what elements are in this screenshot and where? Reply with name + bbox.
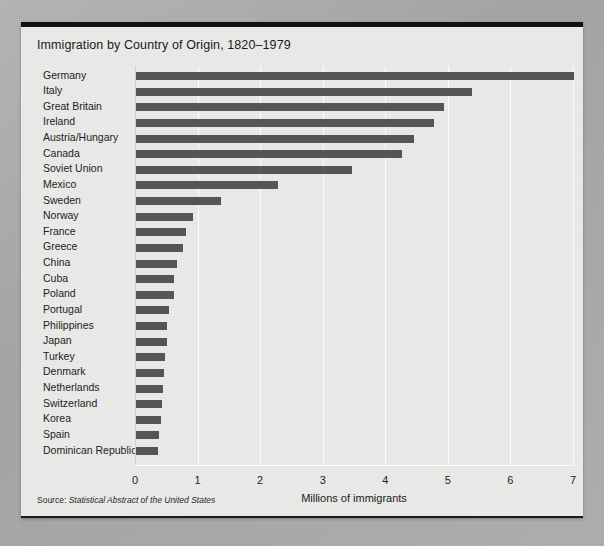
x-tick-label: 6 [507,474,513,486]
bar [136,181,278,189]
bar [136,385,163,393]
plot-area: 01234567 [135,66,573,466]
bar [136,369,164,377]
source-note: Source: Statistical Abstract of the Unit… [37,495,215,505]
category-label: Italy [43,84,62,96]
category-label: Portugal [43,303,82,315]
category-label: Philippines [43,319,94,331]
category-label: Mexico [43,178,76,190]
bar [136,400,162,408]
category-label: Spain [43,428,70,440]
category-label: Turkey [43,350,75,362]
category-label: Japan [43,334,72,346]
category-label: Canada [43,147,80,159]
bar [136,353,165,361]
x-tick-label: 3 [320,474,326,486]
category-label: Soviet Union [43,162,103,174]
x-tick-label: 4 [382,474,388,486]
category-label: Sweden [43,194,81,206]
x-tick-label: 0 [132,474,138,486]
bar [136,306,169,314]
category-label: Netherlands [43,381,100,393]
category-label: Great Britain [43,100,102,112]
category-label: Germany [43,69,86,81]
source-prefix: Source: [37,495,69,505]
bar [136,150,402,158]
bar [136,197,221,205]
bottom-rule [21,516,583,518]
category-label: Switzerland [43,397,97,409]
bar [136,291,174,299]
bar [136,88,472,96]
bar [136,135,414,143]
category-axis-line [135,465,573,466]
category-label: Greece [43,240,77,252]
chart-figure: Immigration by Country of Origin, 1820–1… [21,22,583,518]
x-tick-label: 1 [195,474,201,486]
bar [136,103,444,111]
gridline [510,66,511,466]
category-label: Norway [43,209,79,221]
gridline [573,66,574,466]
category-label: Denmark [43,365,86,377]
category-label: Poland [43,287,76,299]
category-label: Korea [43,412,71,424]
bar [136,416,161,424]
bar [136,119,434,127]
bar [136,260,177,268]
x-tick-label: 7 [570,474,576,486]
category-label: Dominican Republic [43,444,136,456]
bar [136,338,167,346]
bar [136,322,167,330]
bar [136,213,193,221]
category-label: Cuba [43,272,68,284]
category-label: France [43,225,76,237]
bar [136,72,574,80]
top-rule [21,22,583,27]
bar [136,431,159,439]
gridline [448,66,449,466]
category-label: Ireland [43,115,75,127]
bar [136,244,183,252]
source-publication: Statistical Abstract of the United State… [69,495,216,505]
bar [136,447,158,455]
bar [136,228,186,236]
bar [136,166,352,174]
category-label: Austria/Hungary [43,131,118,143]
chart-title: Immigration by Country of Origin, 1820–1… [37,38,291,52]
bar [136,275,174,283]
category-axis-labels: GermanyItalyGreat BritainIrelandAustria/… [43,66,135,466]
category-label: China [43,256,70,268]
x-tick-label: 5 [445,474,451,486]
x-tick-label: 2 [257,474,263,486]
